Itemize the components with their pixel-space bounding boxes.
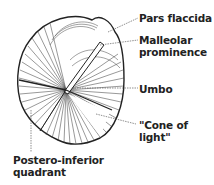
label-pars-flaccida: Pars flaccida: [139, 12, 212, 24]
label-malleolar-prominence: Malleolar prominence: [139, 34, 207, 58]
label-cone-of-light: "Cone of light": [139, 119, 188, 143]
label-postero-inferior-quadrant: Postero-inferior quadrant: [13, 154, 104, 178]
membrane-outline: [18, 17, 124, 144]
label-umbo: Umbo: [139, 83, 172, 95]
